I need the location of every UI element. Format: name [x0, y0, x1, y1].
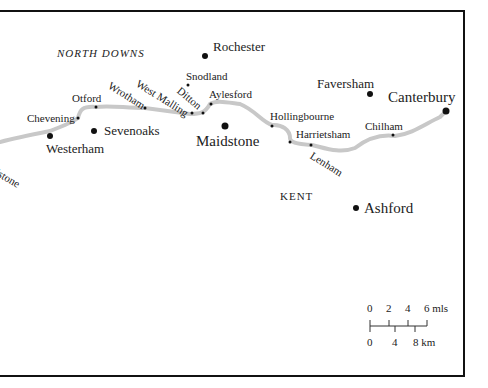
dot-rochester [202, 53, 208, 59]
dot-chevening [77, 117, 80, 120]
region-north-downs: NORTH DOWNS [57, 48, 145, 59]
dot-west-malling [191, 112, 194, 115]
dot-snodland [187, 84, 190, 87]
label-sevenoaks: Sevenoaks [104, 124, 160, 137]
dot-ditton [202, 112, 205, 115]
dot-otford [95, 106, 98, 109]
dot-ashford [353, 205, 359, 211]
label-chilham: Chilham [365, 121, 403, 132]
dot-chilham [392, 134, 395, 137]
label-maidstone: Maidstone [196, 134, 259, 149]
map-frame-bottom [0, 375, 465, 377]
scale-miles-0: 0 [367, 303, 373, 314]
label-harrietsham: Harrietsham [296, 129, 350, 140]
label-westerham: Westerham [46, 142, 104, 155]
dot-aylesford [210, 103, 213, 106]
label-rochester: Rochester [213, 40, 265, 53]
dot-maidstone [222, 123, 229, 130]
dot-lenham [310, 144, 313, 147]
scale-km-4: 4 [392, 337, 398, 348]
label-ashford: Ashford [364, 201, 413, 216]
scale-km-8: 8 km [413, 337, 435, 348]
scale-miles-2: 2 [386, 303, 392, 314]
dot-hollingbourne [271, 125, 274, 128]
dot-faversham [367, 91, 373, 97]
dot-wrotham [144, 107, 147, 110]
label-faversham: Faversham [317, 77, 374, 90]
dot-sevenoaks [91, 128, 97, 134]
label-snodland: Snodland [186, 71, 228, 82]
label-chevening: Chevening [27, 113, 75, 124]
label-hollingbourne: Hollingbourne [270, 111, 334, 122]
map: NORTH DOWNS Rochester Snodland Faversham… [0, 0, 488, 388]
label-canterbury: Canterbury [388, 90, 455, 105]
scale-miles-4: 4 [405, 303, 411, 314]
region-kent: KENT [280, 191, 313, 202]
dot-westerham [47, 133, 53, 139]
scale-bar [370, 320, 427, 332]
map-frame-top [0, 10, 465, 12]
dot-harrietsham [289, 141, 292, 144]
dot-canterbury [443, 108, 450, 115]
label-otford: Otford [72, 93, 101, 104]
scale-km-0: 0 [367, 337, 373, 348]
scale-miles-6: 6 mls [424, 303, 448, 314]
label-aylesford: Aylesford [209, 89, 252, 100]
map-frame-right [463, 10, 465, 377]
